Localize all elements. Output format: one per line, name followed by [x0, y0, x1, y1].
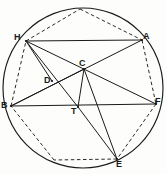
circumscribed-circle-group — [3, 8, 163, 168]
vertex-dot-H — [25, 40, 27, 42]
point-label-F: F — [155, 97, 161, 106]
chord-T-E — [78, 107, 117, 159]
point-label-H: H — [14, 33, 21, 42]
point-label-C: C — [79, 59, 86, 68]
chord-H-F — [26, 41, 156, 104]
point-label-A: A — [143, 32, 150, 41]
chord-H-A — [26, 40, 142, 41]
segment-C-T — [78, 69, 84, 107]
point-label-T: T — [71, 107, 77, 116]
circumscribed-circle — [3, 8, 163, 168]
poly-edge-E-P2 — [54, 159, 117, 160]
poly-edge-A-F — [142, 40, 156, 104]
point-label-B: B — [1, 101, 8, 110]
chord-H-T — [26, 41, 78, 107]
point-label-E: E — [116, 160, 122, 169]
geometry-canvas — [0, 0, 167, 174]
geometry-figure: HABFECDT — [0, 0, 167, 174]
poly-edge-B-H — [11, 41, 26, 106]
vertex-dot-B — [10, 105, 12, 107]
inscribed-polygon-dashed — [11, 9, 156, 160]
vertex-dot-D — [51, 80, 53, 82]
point-label-D: D — [44, 76, 51, 85]
vertex-dot-C — [83, 68, 85, 70]
vertex-dot-T — [77, 106, 79, 108]
chord-B-F — [11, 104, 156, 106]
